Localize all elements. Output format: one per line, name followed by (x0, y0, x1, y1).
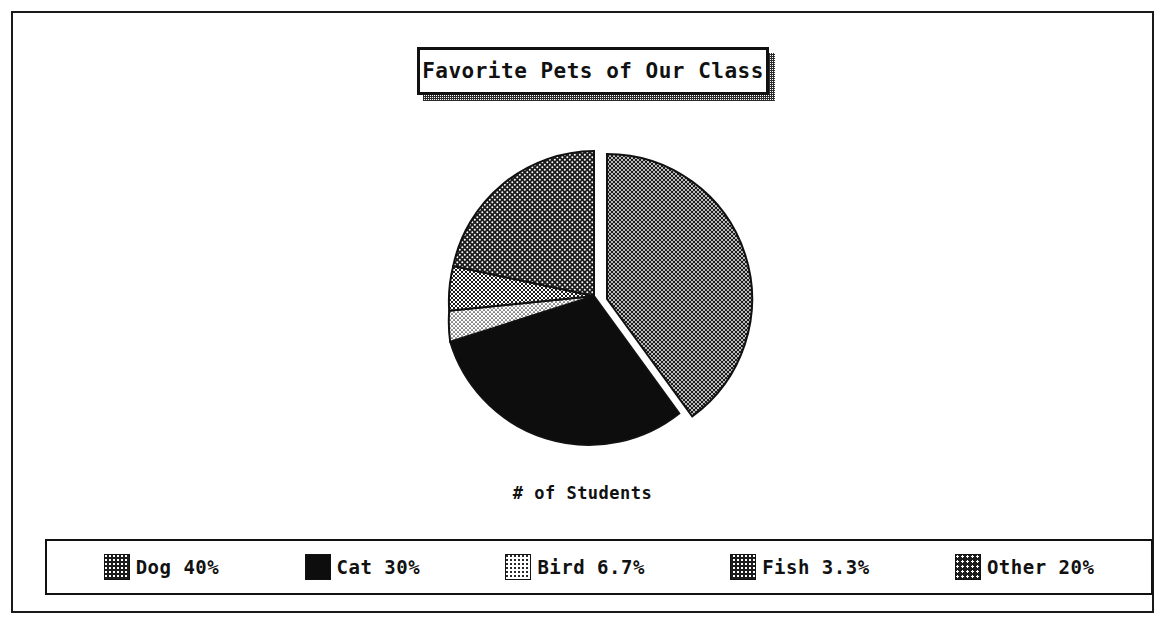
legend-item-fish[interactable]: Fish 3.3% (730, 554, 869, 580)
page-title: Favorite Pets of Our Class (422, 59, 764, 83)
chart-title-block: Favorite Pets of Our Class (417, 47, 769, 95)
legend-item-dog[interactable]: Dog 40% (104, 554, 220, 580)
legend-swatch-dog (104, 554, 130, 580)
legend-label-fish: Fish 3.3% (762, 556, 869, 578)
legend-swatch-fish (730, 554, 756, 580)
legend-label-other: Other 20% (987, 556, 1094, 578)
chart-outer-frame: Favorite Pets of Our Class (11, 11, 1154, 613)
legend-label-bird: Bird 6.7% (537, 556, 644, 578)
legend-label-dog: Dog 40% (136, 556, 220, 578)
legend-item-cat[interactable]: Cat 30% (305, 554, 421, 580)
legend-swatch-bird (505, 554, 531, 580)
chart-legend: Dog 40% Cat 30% Bird 6.7% Fish 3.3% Othe… (45, 539, 1153, 595)
axis-label: # of Students (13, 483, 1152, 503)
legend-label-cat: Cat 30% (337, 556, 421, 578)
title-box: Favorite Pets of Our Class (417, 47, 769, 95)
pie-chart-svg (431, 141, 761, 461)
legend-swatch-cat (305, 554, 331, 580)
legend-item-other[interactable]: Other 20% (955, 554, 1094, 580)
legend-item-bird[interactable]: Bird 6.7% (505, 554, 644, 580)
legend-swatch-other (955, 554, 981, 580)
pie-chart-area (431, 141, 761, 461)
